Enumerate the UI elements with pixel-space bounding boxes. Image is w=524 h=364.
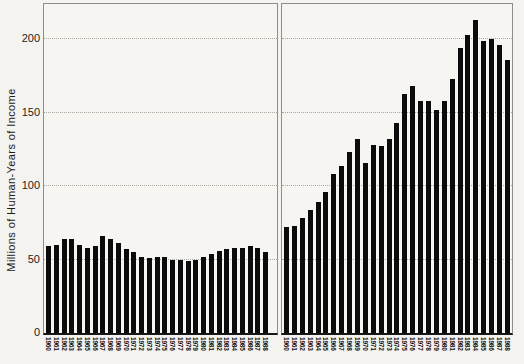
x-tick-cell: 1977 bbox=[418, 335, 423, 363]
x-tick-cell: 1984 bbox=[232, 335, 237, 363]
x-tick-cell: 1969 bbox=[116, 335, 121, 363]
x-tick-cell: 1972 bbox=[379, 335, 384, 363]
x-tick-cell: 1964 bbox=[316, 335, 321, 363]
x-tick-label-right-1983: 1983 bbox=[464, 337, 471, 351]
x-tick-cell: 1972 bbox=[139, 335, 144, 363]
bar-right-1973 bbox=[387, 139, 392, 333]
x-axis-labels-right: 1960196119621963196419651966196719681969… bbox=[282, 335, 512, 363]
x-tick-cell: 1960 bbox=[284, 335, 289, 363]
y-tick-label-200: 200 bbox=[22, 32, 40, 44]
x-tick-label-left-1964: 1964 bbox=[76, 337, 83, 351]
x-tick-cell: 1961 bbox=[292, 335, 297, 363]
x-tick-label-right-1980: 1980 bbox=[441, 337, 448, 351]
x-tick-cell: 1966 bbox=[331, 335, 336, 363]
x-tick-label-right-1982: 1982 bbox=[457, 337, 464, 351]
bar-right-1963 bbox=[308, 210, 313, 333]
x-tick-label-right-1966: 1966 bbox=[330, 337, 337, 351]
bar-left-1978 bbox=[186, 261, 191, 333]
x-tick-label-right-1988: 1988 bbox=[504, 337, 511, 351]
x-tick-label-left-1962: 1962 bbox=[61, 337, 68, 351]
bar-left-1984 bbox=[232, 248, 237, 333]
chart-panel-left: 1960196119621963196419651966196719681969… bbox=[43, 3, 278, 335]
x-tick-cell: 1988 bbox=[505, 335, 510, 363]
bar-right-1962 bbox=[300, 218, 305, 333]
x-tick-cell: 1984 bbox=[473, 335, 478, 363]
bar-left-1964 bbox=[77, 245, 82, 333]
bar-right-1974 bbox=[394, 123, 399, 333]
x-tick-label-left-1986: 1986 bbox=[247, 337, 254, 351]
bar-left-1969 bbox=[116, 243, 121, 333]
bar-right-1964 bbox=[316, 202, 321, 333]
y-tick-label-0: 0 bbox=[34, 326, 40, 338]
x-tick-cell: 1965 bbox=[323, 335, 328, 363]
x-tick-label-left-1967: 1967 bbox=[99, 337, 106, 351]
x-tick-label-left-1968: 1968 bbox=[107, 337, 114, 351]
x-tick-label-right-1974: 1974 bbox=[393, 337, 400, 351]
x-tick-cell: 1962 bbox=[300, 335, 305, 363]
bar-right-1987 bbox=[497, 45, 502, 333]
x-tick-cell: 1978 bbox=[426, 335, 431, 363]
bar-left-1967 bbox=[100, 236, 105, 333]
x-tick-cell: 1968 bbox=[347, 335, 352, 363]
x-tick-cell: 1976 bbox=[410, 335, 415, 363]
x-tick-cell: 1963 bbox=[69, 335, 74, 363]
x-tick-label-right-1964: 1964 bbox=[315, 337, 322, 351]
x-tick-label-left-1983: 1983 bbox=[223, 337, 230, 351]
bar-left-1975 bbox=[162, 257, 167, 333]
x-tick-cell: 1970 bbox=[363, 335, 368, 363]
bar-left-1985 bbox=[240, 248, 245, 333]
bar-left-1987 bbox=[255, 248, 260, 333]
x-tick-cell: 1967 bbox=[339, 335, 344, 363]
bar-right-1967 bbox=[339, 166, 344, 333]
x-tick-cell: 1981 bbox=[209, 335, 214, 363]
x-tick-cell: 1983 bbox=[465, 335, 470, 363]
x-tick-cell: 1971 bbox=[131, 335, 136, 363]
x-tick-label-left-1965: 1965 bbox=[84, 337, 91, 351]
x-tick-cell: 1963 bbox=[308, 335, 313, 363]
bar-right-1969 bbox=[355, 139, 360, 333]
x-tick-cell: 1988 bbox=[263, 335, 268, 363]
x-tick-label-right-1965: 1965 bbox=[322, 337, 329, 351]
bar-left-1961 bbox=[54, 245, 59, 333]
y-tick-label-150: 150 bbox=[22, 106, 40, 118]
x-tick-label-left-1985: 1985 bbox=[239, 337, 246, 351]
x-tick-cell: 1987 bbox=[497, 335, 502, 363]
x-tick-cell: 1971 bbox=[371, 335, 376, 363]
bar-left-1980 bbox=[201, 257, 206, 333]
x-tick-label-left-1971: 1971 bbox=[130, 337, 137, 351]
x-tick-label-right-1960: 1960 bbox=[283, 337, 290, 351]
bar-right-1980 bbox=[442, 101, 447, 333]
bar-left-1983 bbox=[224, 249, 229, 333]
x-tick-label-left-1978: 1978 bbox=[185, 337, 192, 351]
bar-left-1963 bbox=[69, 239, 74, 333]
x-tick-label-left-1963: 1963 bbox=[68, 337, 75, 351]
bar-left-1970 bbox=[124, 249, 129, 333]
x-tick-cell: 1979 bbox=[193, 335, 198, 363]
x-tick-cell: 1974 bbox=[394, 335, 399, 363]
x-tick-cell: 1974 bbox=[155, 335, 160, 363]
x-tick-label-right-1976: 1976 bbox=[409, 337, 416, 351]
y-tick-label-50: 50 bbox=[28, 253, 40, 265]
x-tick-cell: 1976 bbox=[170, 335, 175, 363]
bar-right-1965 bbox=[323, 192, 328, 333]
x-tick-cell: 1969 bbox=[355, 335, 360, 363]
bar-chart-figure: Millions of Human-Years of Income 050100… bbox=[0, 0, 524, 364]
x-tick-label-left-1976: 1976 bbox=[169, 337, 176, 351]
x-tick-label-left-1961: 1961 bbox=[53, 337, 60, 351]
bar-left-1979 bbox=[193, 260, 198, 333]
x-tick-label-right-1969: 1969 bbox=[354, 337, 361, 351]
x-tick-label-left-1979: 1979 bbox=[192, 337, 199, 351]
x-tick-cell: 1977 bbox=[178, 335, 183, 363]
x-tick-cell: 1964 bbox=[77, 335, 82, 363]
bar-left-1973 bbox=[147, 258, 152, 333]
x-tick-label-right-1970: 1970 bbox=[362, 337, 369, 351]
x-tick-cell: 1980 bbox=[442, 335, 447, 363]
x-tick-cell: 1980 bbox=[201, 335, 206, 363]
x-tick-cell: 1987 bbox=[255, 335, 260, 363]
x-tick-cell: 1981 bbox=[450, 335, 455, 363]
bar-right-1977 bbox=[418, 101, 423, 333]
chart-panel-right: 1960196119621963196419651966196719681969… bbox=[281, 3, 513, 335]
x-tick-label-right-1972: 1972 bbox=[378, 337, 385, 351]
x-tick-label-right-1975: 1975 bbox=[401, 337, 408, 351]
bar-left-1976 bbox=[170, 260, 175, 333]
